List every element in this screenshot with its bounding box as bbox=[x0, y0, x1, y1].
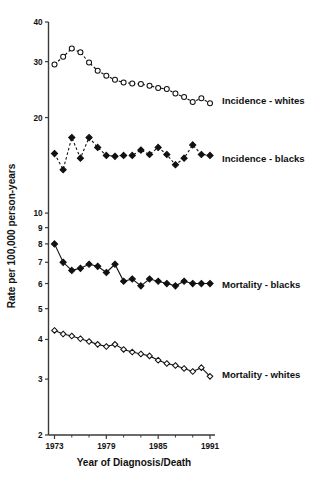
data-point-open-diamond bbox=[190, 369, 196, 375]
series-mortality-whites bbox=[52, 328, 213, 380]
data-point-filled-diamond bbox=[181, 278, 187, 284]
data-point-filled-diamond bbox=[112, 153, 118, 159]
series-label: Mortality - blacks bbox=[222, 279, 300, 290]
data-point-open-circle bbox=[164, 87, 169, 92]
y-tick-label: 3 bbox=[38, 375, 43, 384]
series-label: Mortality - whites bbox=[222, 369, 300, 380]
data-point-open-diamond bbox=[121, 347, 127, 353]
data-point-open-circle bbox=[208, 101, 213, 106]
y-axis-tick-labels: 2345678910203040 bbox=[33, 18, 43, 440]
data-point-open-circle bbox=[190, 99, 195, 104]
data-point-filled-diamond bbox=[121, 152, 127, 158]
x-tick-label: 1991 bbox=[201, 442, 220, 451]
series-incidence-whites bbox=[52, 46, 213, 106]
data-point-open-circle bbox=[121, 80, 126, 85]
y-tick-label: 6 bbox=[38, 280, 43, 289]
x-tick-label: 1973 bbox=[45, 442, 64, 451]
data-point-open-circle bbox=[130, 81, 135, 86]
data-point-open-circle bbox=[95, 68, 100, 73]
data-point-open-diamond bbox=[52, 328, 58, 334]
data-point-open-diamond bbox=[86, 339, 92, 345]
data-point-open-diamond bbox=[147, 353, 153, 359]
series-label: Incidence - whites bbox=[222, 95, 305, 106]
data-point-open-diamond bbox=[112, 342, 118, 348]
data-point-filled-diamond bbox=[190, 280, 196, 286]
data-point-filled-diamond bbox=[51, 241, 57, 247]
data-point-open-diamond bbox=[78, 336, 84, 342]
data-point-open-circle bbox=[52, 62, 57, 67]
data-point-open-circle bbox=[199, 96, 204, 101]
data-point-open-diamond bbox=[60, 331, 66, 337]
data-point-open-circle bbox=[156, 85, 161, 90]
data-point-open-circle bbox=[61, 54, 66, 59]
y-tick-label: 30 bbox=[33, 58, 43, 67]
data-point-filled-diamond bbox=[207, 152, 213, 158]
chart-figure: 2345678910203040 1973197919851991 Rate p… bbox=[0, 0, 328, 482]
x-tick-label: 1979 bbox=[97, 442, 116, 451]
y-tick-label: 2 bbox=[38, 431, 43, 440]
data-point-open-circle bbox=[87, 60, 92, 65]
y-tick-label: 8 bbox=[38, 240, 43, 249]
rate-trends-line-chart: 2345678910203040 1973197919851991 Rate p… bbox=[0, 0, 328, 482]
series-mortality-blacks bbox=[51, 241, 213, 289]
data-point-open-diamond bbox=[104, 344, 110, 350]
data-point-open-diamond bbox=[164, 361, 170, 367]
data-point-filled-diamond bbox=[121, 278, 127, 284]
data-point-open-circle bbox=[147, 83, 152, 88]
data-point-open-circle bbox=[69, 46, 74, 51]
data-point-filled-diamond bbox=[138, 147, 144, 153]
data-point-filled-diamond bbox=[51, 150, 57, 156]
y-tick-label: 40 bbox=[33, 18, 43, 27]
data-point-open-diamond bbox=[155, 357, 161, 363]
data-point-filled-diamond bbox=[181, 155, 187, 161]
data-point-open-circle bbox=[78, 50, 83, 55]
data-point-open-circle bbox=[173, 91, 178, 96]
data-point-filled-diamond bbox=[86, 134, 92, 140]
data-point-filled-diamond bbox=[172, 283, 178, 289]
y-axis-title: Rate per 100,000 person-years bbox=[6, 163, 17, 308]
y-tick-label: 20 bbox=[33, 114, 43, 123]
y-tick-label: 4 bbox=[38, 335, 43, 344]
data-point-filled-diamond bbox=[155, 278, 161, 284]
data-point-filled-diamond bbox=[103, 152, 109, 158]
data-point-filled-diamond bbox=[164, 280, 170, 286]
data-point-open-diamond bbox=[181, 366, 187, 372]
y-tick-label: 5 bbox=[38, 305, 43, 314]
data-point-filled-diamond bbox=[198, 151, 204, 157]
data-point-filled-diamond bbox=[69, 134, 75, 140]
x-axis-tick-labels: 1973197919851991 bbox=[45, 442, 219, 451]
data-point-filled-diamond bbox=[207, 280, 213, 286]
x-tick-label: 1985 bbox=[149, 442, 168, 451]
chart-series-group bbox=[51, 46, 213, 379]
data-point-open-circle bbox=[112, 77, 117, 82]
data-point-filled-diamond bbox=[172, 162, 178, 168]
y-tick-label: 7 bbox=[38, 258, 43, 267]
data-point-open-diamond bbox=[173, 363, 179, 369]
data-point-open-diamond bbox=[129, 349, 135, 355]
data-point-open-circle bbox=[182, 95, 187, 100]
data-point-open-diamond bbox=[95, 342, 101, 348]
series-annotations: Incidence - whitesIncidence - blacksMort… bbox=[222, 95, 305, 380]
series-label: Incidence - blacks bbox=[222, 153, 305, 164]
data-point-filled-diamond bbox=[198, 280, 204, 286]
data-point-filled-diamond bbox=[77, 265, 83, 271]
y-tick-label: 10 bbox=[33, 209, 43, 218]
data-point-filled-diamond bbox=[77, 155, 83, 161]
data-point-open-diamond bbox=[69, 333, 75, 339]
series-incidence-blacks bbox=[51, 134, 213, 172]
data-point-open-diamond bbox=[138, 351, 144, 357]
y-tick-label: 9 bbox=[38, 224, 43, 233]
x-axis-title: Year of Diagnosis/Death bbox=[77, 457, 191, 468]
data-point-open-circle bbox=[104, 73, 109, 78]
data-point-filled-diamond bbox=[129, 152, 135, 158]
data-point-open-circle bbox=[138, 82, 143, 87]
data-point-filled-diamond bbox=[60, 167, 66, 173]
data-point-filled-diamond bbox=[86, 261, 92, 267]
